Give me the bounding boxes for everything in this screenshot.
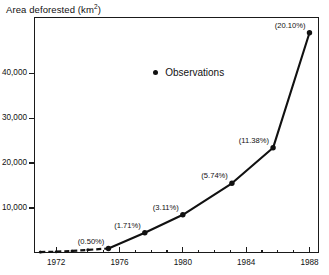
data-point-label: (5.74%) [183,171,228,180]
data-series-layer [0,0,329,275]
data-point-marker [39,251,42,254]
data-point-marker [229,181,234,186]
data-point-marker [71,249,74,252]
data-point-label: (0.50%) [59,237,104,246]
data-point-marker [307,30,312,35]
data-point-marker [106,246,111,251]
data-point-marker [86,248,89,251]
data-point-label: (20.10%) [261,21,306,30]
data-point-marker [270,145,275,150]
data-point-label: (3.11%) [134,203,179,212]
data-point-label: (11.38%) [224,136,269,145]
series-line [40,249,108,253]
deforestation-chart: Area deforested (km2) 10,00020,00030,000… [0,0,329,275]
data-point-marker [180,212,185,217]
series-line [108,33,309,249]
data-point-marker [55,250,58,253]
data-point-marker [142,230,147,235]
data-point-label: (1.71%) [96,221,141,230]
